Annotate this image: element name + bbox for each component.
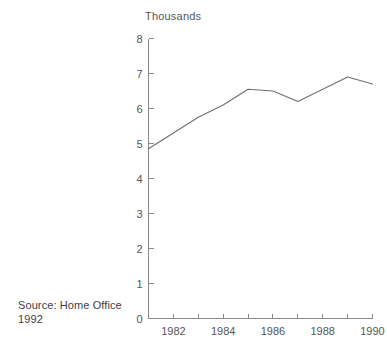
y-tick-label: 7: [136, 68, 142, 80]
x-tick-label: 1988: [310, 325, 334, 337]
data-series: [149, 77, 373, 149]
y-tick-label: 2: [136, 243, 142, 255]
x-axis: 19821984198619881990: [149, 314, 385, 337]
y-tick-label: 1: [136, 278, 142, 290]
y-tick-label: 8: [136, 33, 142, 45]
source-note: Source: Home Office 1992: [18, 298, 122, 326]
y-tick-label: 3: [136, 208, 142, 220]
chart-figure: Thousands 012345678 19821984198619881990…: [0, 0, 387, 354]
x-tick-label: 1984: [211, 325, 235, 337]
data-line: [149, 77, 373, 149]
y-tick-label: 6: [136, 103, 142, 115]
y-tick-label: 4: [136, 173, 142, 185]
x-tick-label: 1982: [161, 325, 185, 337]
y-axis: 012345678: [136, 33, 153, 325]
y-tick-label: 0: [136, 313, 142, 325]
y-tick-label: 5: [136, 138, 142, 150]
x-tick-label: 1990: [360, 325, 384, 337]
x-tick-label: 1986: [261, 325, 285, 337]
